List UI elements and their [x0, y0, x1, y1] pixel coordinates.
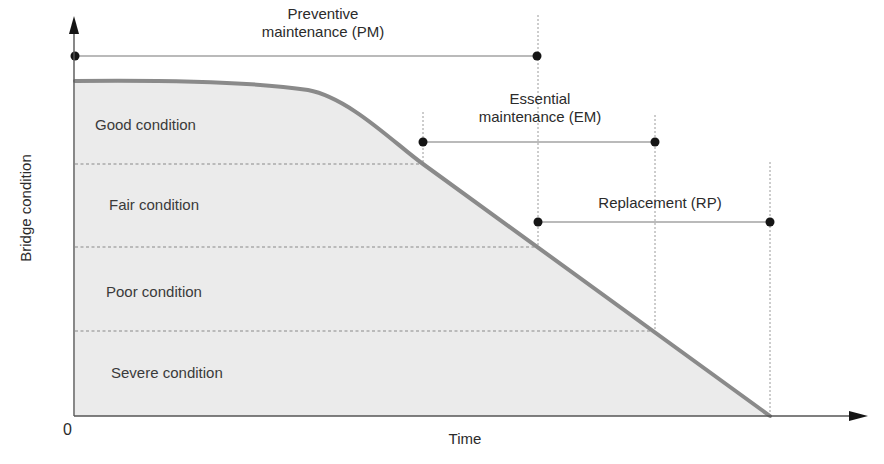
pm-range-label-line2: maintenance (PM) [213, 23, 433, 41]
em-range-label: Essential maintenance (EM) [430, 90, 650, 126]
zone-label-good: Good condition [95, 116, 196, 134]
origin-tick-label: 0 [63, 421, 72, 439]
em-start-marker [419, 138, 428, 147]
rp-range-label: Replacement (RP) [550, 194, 770, 212]
rp-start-marker [534, 218, 543, 227]
diagram-canvas [0, 0, 884, 464]
y-axis-label: Bridge condition [17, 154, 35, 262]
pm-range-label: Preventive maintenance (PM) [213, 5, 433, 41]
em-end-marker [651, 138, 660, 147]
rp-end-marker [766, 218, 775, 227]
zone-label-fair: Fair condition [109, 196, 199, 214]
pm-range-label-line1: Preventive [213, 5, 433, 23]
rp-range-label-line1: Replacement (RP) [550, 194, 770, 212]
pm-start-marker [71, 52, 80, 61]
zone-label-poor: Poor condition [106, 283, 202, 301]
y-axis-arrow-icon [69, 16, 79, 34]
x-axis-label: Time [415, 430, 515, 448]
em-range-label-line1: Essential [430, 90, 650, 108]
em-range-label-line2: maintenance (EM) [430, 108, 650, 126]
pm-end-marker [533, 52, 542, 61]
x-axis-arrow-icon [849, 411, 868, 421]
zone-label-severe: Severe condition [111, 364, 223, 382]
deterioration-diagram: Preventive maintenance (PM) Essential ma… [0, 0, 884, 464]
